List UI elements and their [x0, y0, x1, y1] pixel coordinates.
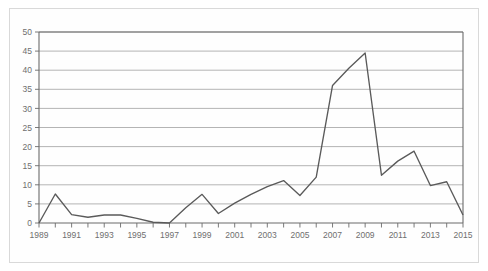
- x-axis-tick-label: 1989: [30, 230, 49, 240]
- x-axis-tick-label: 2013: [421, 230, 440, 240]
- y-axis-tick-label: 25: [23, 123, 33, 133]
- x-axis-tick-label: 2011: [389, 230, 408, 240]
- y-axis-tick-label: 15: [23, 161, 33, 171]
- x-axis-tick-label: 1991: [62, 230, 81, 240]
- y-axis-tick-label: 35: [23, 84, 33, 94]
- x-axis-tick-label: 1999: [193, 230, 212, 240]
- y-axis-tick-label: 30: [23, 104, 33, 114]
- x-axis-tick-label: 2003: [258, 230, 277, 240]
- x-axis-tick-label: 1997: [160, 230, 179, 240]
- y-axis-tick-label: 40: [23, 65, 33, 75]
- y-axis-tick-label: 0: [27, 218, 32, 228]
- y-axis-tick-label: 20: [23, 142, 33, 152]
- x-axis-tick-label: 2015: [454, 230, 473, 240]
- plot-area: 0510152025303540455019891991199319951997…: [10, 9, 480, 264]
- x-axis-tick-label: 2009: [356, 230, 375, 240]
- y-axis-tick-label: 45: [23, 46, 33, 56]
- x-axis-tick-label: 2005: [290, 230, 309, 240]
- x-axis-tick-label: 1995: [127, 230, 146, 240]
- x-axis-tick-label: 2001: [225, 230, 244, 240]
- data-series-line: [39, 53, 463, 223]
- line-chart: 0510152025303540455019891991199319951997…: [10, 9, 480, 264]
- y-axis-tick-label: 50: [23, 27, 33, 37]
- x-axis-tick-label: 2007: [323, 230, 342, 240]
- y-axis-tick-label: 5: [27, 199, 32, 209]
- y-axis-tick-label: 10: [23, 180, 33, 190]
- chart-frame: 0510152025303540455019891991199319951997…: [9, 8, 479, 263]
- x-axis-tick-label: 1993: [95, 230, 114, 240]
